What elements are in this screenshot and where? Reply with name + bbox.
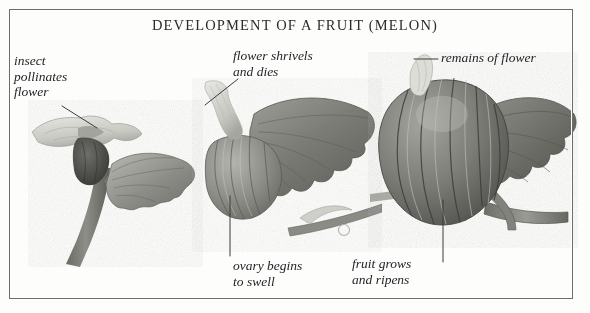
- label-insect-pollinates-flower: insect pollinates flower: [14, 53, 67, 100]
- label-fruit-grows-and-ripens: fruit grows and ripens: [352, 256, 411, 287]
- label-remains-of-flower: remains of flower: [441, 50, 536, 66]
- stage3-stalk: [484, 202, 568, 224]
- illustration-stage-3-ripening-fruit: [368, 52, 578, 267]
- illustration-stage-2-young-fruit: [192, 78, 382, 258]
- page-title: DEVELOPMENT OF A FRUIT (MELON): [0, 17, 590, 34]
- botanical-plate: DEVELOPMENT OF A FRUIT (MELON) insect po…: [0, 0, 590, 313]
- label-flower-shrivels-and-dies: flower shrivels and dies: [233, 48, 313, 79]
- stage2-shrivelled-flower: [205, 81, 242, 140]
- stage1-leaf: [106, 153, 195, 210]
- illustration-stage-1-flowering: [28, 92, 203, 267]
- label-ovary-begins-to-swell: ovary begins to swell: [233, 258, 302, 289]
